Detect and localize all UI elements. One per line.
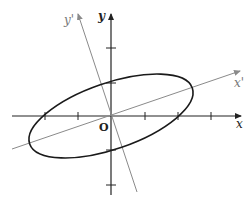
ellipse-rotation-diagram: x y x' y' O [0,0,252,205]
x-axis-label: x [236,117,243,131]
y-prime-axis-label: y' [63,13,74,27]
y-axis-label: y [97,9,106,23]
origin-label: O [99,121,109,134]
y-prime-axis [78,14,137,192]
x-prime-axis-label: x' [234,76,244,90]
x-prime-axis [12,71,240,149]
